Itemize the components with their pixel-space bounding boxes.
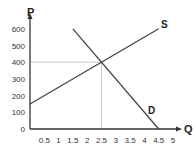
x-tick-label: 1.5 <box>67 136 79 145</box>
demand-label: D <box>148 105 155 116</box>
equilibrium-guides <box>30 62 102 129</box>
x-tick-labels: 0.511.522.533.544.55 <box>39 136 176 145</box>
x-tick-label: 3 <box>114 136 119 145</box>
y-tick-label: 100 <box>12 108 26 117</box>
y-tick-label: 300 <box>12 75 26 84</box>
x-tick-label: 0.5 <box>39 136 51 145</box>
supply-curve <box>30 29 159 104</box>
y-tick-label: 400 <box>12 58 26 67</box>
x-tick-label: 4 <box>142 136 147 145</box>
curves <box>30 29 159 129</box>
y-tick-label: 500 <box>12 42 26 51</box>
axes <box>28 13 183 132</box>
supply-demand-chart: 0100200300400500600 0.511.522.533.544.55… <box>0 0 196 148</box>
x-axis-arrow-icon <box>176 127 182 132</box>
q-axis-label: Q <box>184 123 193 135</box>
supply-label: S <box>161 19 168 30</box>
y-tick-labels: 0100200300400500600 <box>12 25 26 134</box>
x-tick-label: 2.5 <box>96 136 108 145</box>
x-tick-label: 3.5 <box>125 136 137 145</box>
demand-curve <box>73 29 159 129</box>
x-tick-label: 5 <box>171 136 176 145</box>
p-axis-label: P <box>27 6 34 18</box>
x-tick-label: 1 <box>56 136 61 145</box>
y-tick-label: 600 <box>12 25 26 34</box>
y-tick-label: 200 <box>12 92 26 101</box>
x-tick-label: 2 <box>85 136 90 145</box>
x-tick-label: 4.5 <box>153 136 165 145</box>
y-tick-label: 0 <box>21 125 26 134</box>
